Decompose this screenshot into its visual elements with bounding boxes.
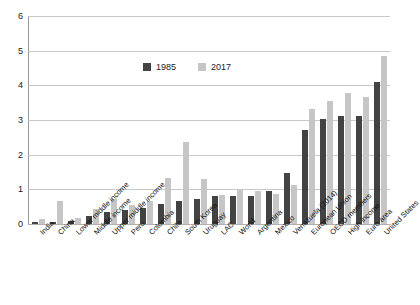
- legend-label-1985: 1985: [156, 62, 176, 72]
- x-label-cell: India: [29, 226, 47, 304]
- x-label-cell: Upper middle income: [101, 226, 119, 304]
- y-tick-label: 6: [18, 11, 23, 21]
- bar: [237, 190, 243, 224]
- bar-group: [65, 16, 83, 224]
- bar-group: [191, 16, 209, 224]
- x-label-cell: South Korea: [174, 226, 192, 304]
- legend-swatch-icon-1985: [143, 63, 151, 71]
- bar-group: [264, 16, 282, 224]
- x-label-cell: Venezuela (2014): [282, 226, 300, 304]
- y-tick-label: 0: [18, 219, 23, 229]
- x-label-cell: Euro area: [355, 226, 373, 304]
- bar-group: [173, 16, 191, 224]
- x-label-cell: Chile: [156, 226, 174, 304]
- bar-group: [246, 16, 264, 224]
- bar: [32, 222, 38, 224]
- bar: [381, 56, 387, 224]
- bar-group: [372, 16, 390, 224]
- bar: [255, 191, 261, 224]
- x-label-cell: European Union: [300, 226, 318, 304]
- bar-group: [300, 16, 318, 224]
- x-label-cell: Peru: [119, 226, 137, 304]
- y-tick-label: 4: [18, 80, 23, 90]
- y-tick-label: 2: [18, 150, 23, 160]
- y-tick-label: 3: [18, 115, 23, 125]
- bar: [302, 130, 308, 224]
- x-label-cell: High income: [337, 226, 355, 304]
- bar-group: [47, 16, 65, 224]
- bar: [230, 196, 236, 224]
- chart-legend: 1985 2017: [143, 62, 231, 72]
- x-label-cell: Argentina: [246, 226, 264, 304]
- x-label-cell: China: [47, 226, 65, 304]
- y-tick-label: 1: [18, 184, 23, 194]
- bar-group: [83, 16, 101, 224]
- bar-group: [29, 16, 47, 224]
- legend-entry-2017: 2017: [198, 62, 231, 72]
- x-label-cell: OECD members: [319, 226, 337, 304]
- x-label-cell: Lower middle income: [65, 226, 83, 304]
- x-label-cell: Middle income: [83, 226, 101, 304]
- bar-group: [282, 16, 300, 224]
- x-label-cell: Mexico: [264, 226, 282, 304]
- legend-entry-1985: 1985: [143, 62, 176, 72]
- x-label-cell: Colombia: [138, 226, 156, 304]
- x-label-cell: LAC: [210, 226, 228, 304]
- bar: [183, 142, 189, 224]
- y-tick-label: 5: [18, 46, 23, 56]
- bar-group: [209, 16, 227, 224]
- x-label-cell: Uruguay: [192, 226, 210, 304]
- legend-swatch-icon-2017: [198, 63, 206, 71]
- legend-label-2017: 2017: [211, 62, 231, 72]
- x-label-cell: World: [228, 226, 246, 304]
- bar: [57, 201, 63, 224]
- x-label-cell: United States: [373, 226, 391, 304]
- x-axis-labels: IndiaChinaLower middle incomeMiddle inco…: [29, 226, 391, 304]
- bar-group: [228, 16, 246, 224]
